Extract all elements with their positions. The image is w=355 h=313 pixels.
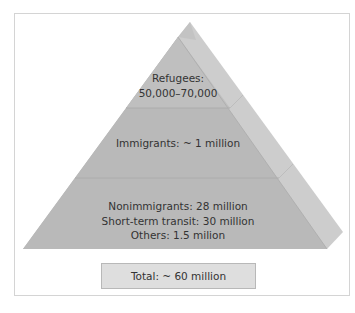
level-bottom-label: Nonimmigrants: 28 million Short-term tra… — [88, 199, 268, 243]
total-box: Total: ~ 60 million — [101, 263, 256, 289]
level-middle-label: Immigrants: ~ 1 million — [98, 136, 258, 151]
level-bottom-line-3: Others: 1.5 milion — [88, 228, 268, 243]
level-top-label: Refugees: 50,000–70,000 — [128, 71, 228, 100]
level-middle-line-1: Immigrants: ~ 1 million — [98, 136, 258, 151]
level-bottom-line-1: Nonimmigrants: 28 million — [88, 199, 268, 214]
level-top-line-2: 50,000–70,000 — [128, 86, 228, 101]
level-top-line-1: Refugees: — [128, 71, 228, 86]
level-bottom-line-2: Short-term transit: 30 million — [88, 214, 268, 229]
